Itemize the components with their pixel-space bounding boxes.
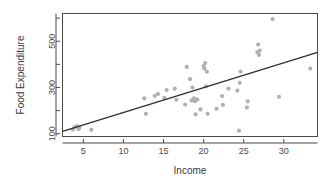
scatter-plot-figure: 100300500 51015202530 Food Expenditure I… (0, 0, 331, 187)
data-point (205, 70, 209, 74)
y-tick-label: 300 (48, 80, 58, 95)
data-point (214, 107, 218, 111)
data-point (270, 17, 274, 21)
data-point (256, 42, 260, 46)
y-axis-title: Food Expenditure (15, 35, 26, 114)
data-point (246, 99, 250, 103)
data-point (174, 98, 178, 102)
data-point (221, 103, 225, 107)
data-point (198, 107, 202, 111)
data-point (89, 128, 93, 132)
data-point (165, 88, 169, 92)
x-tick-label: 5 (81, 146, 86, 156)
data-point (237, 129, 241, 133)
data-point (188, 77, 192, 81)
data-point (206, 112, 210, 116)
data-point (203, 61, 207, 65)
data-point (235, 89, 239, 93)
data-point (277, 95, 281, 99)
x-tick-label: 15 (159, 146, 169, 156)
plot-canvas: 100300500 51015202530 Food Expenditure I… (0, 0, 331, 187)
data-point (183, 102, 187, 106)
x-tick-label: 25 (239, 146, 249, 156)
data-point (258, 48, 262, 52)
x-axis-title: Income (174, 165, 207, 176)
y-tick-label: 100 (48, 126, 58, 141)
data-point (238, 69, 242, 73)
data-point (173, 87, 177, 91)
x-tick-label: 20 (199, 146, 209, 156)
data-point (185, 65, 189, 69)
data-point (245, 105, 249, 109)
data-point (220, 94, 224, 98)
x-tick-label: 30 (279, 146, 289, 156)
data-point (226, 87, 230, 91)
data-point (308, 66, 312, 70)
data-point (195, 97, 199, 101)
y-tick-label: 500 (48, 34, 58, 49)
data-point (190, 85, 194, 89)
data-point (142, 96, 146, 100)
data-point (238, 81, 242, 85)
x-tick-label: 10 (118, 146, 128, 156)
data-point (156, 92, 160, 96)
data-point (257, 53, 261, 57)
data-point (194, 112, 198, 116)
data-point (144, 112, 148, 116)
